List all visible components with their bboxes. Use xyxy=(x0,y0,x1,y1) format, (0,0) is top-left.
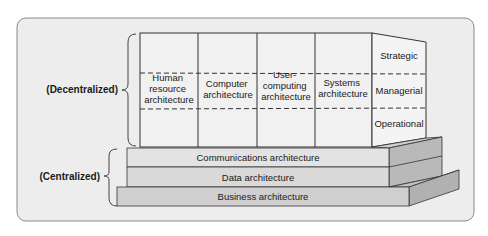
business-architecture-label: Business architecture xyxy=(218,191,309,202)
data-architecture-label: Data architecture xyxy=(222,172,294,183)
level-label-operational: Operational xyxy=(374,118,423,129)
level-label-managerial: Managerial xyxy=(376,85,423,96)
column-label-computer: Computer architecture xyxy=(203,78,253,100)
centralized-label: (Centralized) xyxy=(39,171,100,182)
column-label-systems: Systems architecture xyxy=(318,77,368,99)
architecture-diagram: Human resource architecture Computer arc… xyxy=(0,0,488,236)
level-label-strategic: Strategic xyxy=(380,50,418,61)
decentralized-label: (Decentralized) xyxy=(46,84,118,95)
communications-architecture-label: Communications architecture xyxy=(196,152,319,163)
